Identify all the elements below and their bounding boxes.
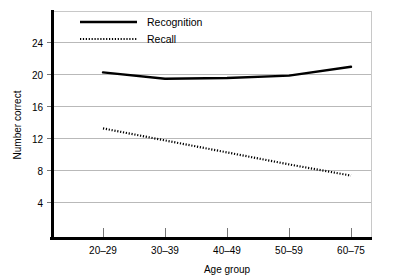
y-axis-title: Number correct [12, 90, 23, 159]
y-tick-label-20: 20 [32, 70, 44, 81]
chart-figure: 24 20 16 12 8 4 20–29 30–39 40–49 50–59 … [0, 0, 393, 280]
y-tick-label-16: 16 [32, 102, 44, 113]
x-tick-label-60-75: 60–75 [337, 245, 365, 256]
y-tick-label-4: 4 [37, 198, 43, 209]
legend-label-recognition: Recognition [147, 16, 203, 28]
line-chart-canvas: 24 20 16 12 8 4 20–29 30–39 40–49 50–59 … [0, 0, 393, 280]
y-tick-label-8: 8 [37, 166, 43, 177]
y-tick-label-12: 12 [32, 134, 44, 145]
x-axis-title: Age group [204, 264, 251, 275]
x-tick-label-40-49: 40–49 [213, 245, 241, 256]
x-tick-label-30-39: 30–39 [151, 245, 179, 256]
legend-label-recall: Recall [147, 33, 176, 45]
x-tick-label-20-29: 20–29 [89, 245, 117, 256]
y-tick-label-24: 24 [32, 38, 44, 49]
x-tick-label-50-59: 50–59 [275, 245, 303, 256]
